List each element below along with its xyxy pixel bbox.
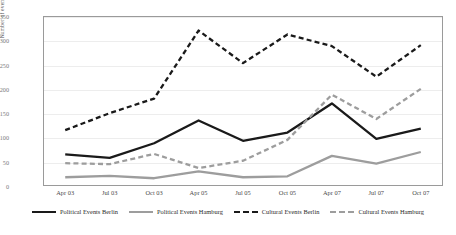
legend-label: Cultural Events Hamburg (358, 208, 424, 215)
legend-swatch-icon (129, 211, 153, 213)
y-tick-label: 50 (0, 158, 9, 165)
y-tick-label: 250 (0, 61, 9, 68)
x-tick-label: Oct 07 (391, 189, 451, 196)
y-axis-title: Number of events (0, 0, 5, 62)
y-tick-label: 100 (0, 134, 9, 141)
legend-swatch-icon (234, 211, 258, 213)
series-line (65, 103, 421, 157)
x-axis-tick-labels: Apr 03Jul 03Oct 03Apr 05Jul 05Oct 05Apr … (43, 189, 443, 201)
y-tick-label: 150 (0, 110, 9, 117)
chart-figure: Number of events 050100150200250300350 A… (0, 0, 456, 235)
series-line (65, 31, 421, 131)
legend-item[interactable]: Political Events Hamburg (129, 208, 223, 215)
legend-label: Political Events Hamburg (157, 208, 223, 215)
legend-swatch-icon (330, 211, 354, 213)
chart-legend: Political Events BerlinPolitical Events … (0, 208, 456, 215)
y-tick-label: 0 (0, 183, 9, 190)
y-tick-label: 200 (0, 85, 9, 92)
legend-label: Political Events Berlin (60, 208, 118, 215)
legend-item[interactable]: Cultural Events Hamburg (330, 208, 424, 215)
legend-label: Cultural Events Berlin (262, 208, 320, 215)
legend-item[interactable]: Cultural Events Berlin (234, 208, 320, 215)
series-line (65, 89, 421, 168)
legend-item[interactable]: Political Events Berlin (32, 208, 118, 215)
series-layer (43, 16, 443, 186)
legend-swatch-icon (32, 211, 56, 213)
